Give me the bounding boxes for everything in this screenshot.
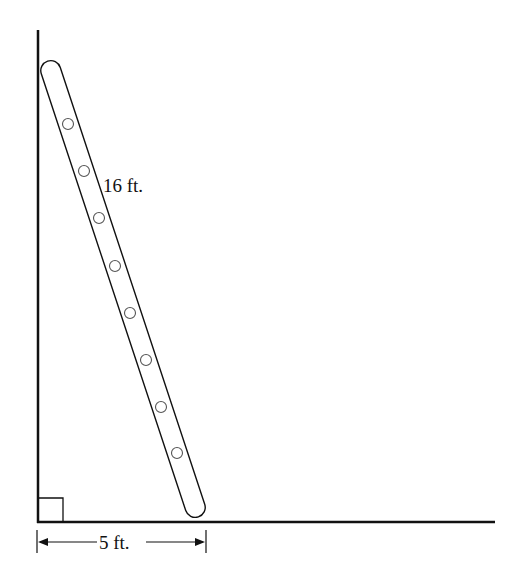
ladder-rungs: [63, 119, 183, 459]
ladder-length-label: 16 ft.: [103, 175, 143, 196]
rung-circle: [141, 355, 152, 366]
rung-circle: [156, 402, 167, 413]
rung-circle: [125, 308, 136, 319]
rung-circle: [79, 166, 90, 177]
ladder-diagram: 16 ft. 5 ft.: [0, 0, 518, 574]
rung-circle: [172, 448, 183, 459]
base-distance-label: 5 ft.: [99, 532, 130, 553]
rung-circle: [63, 119, 74, 130]
rung-circle: [110, 261, 121, 272]
rung-circle: [94, 213, 105, 224]
right-angle-marker: [38, 498, 63, 522]
arrowhead-right-icon: [195, 538, 205, 546]
arrowhead-left-icon: [38, 538, 48, 546]
